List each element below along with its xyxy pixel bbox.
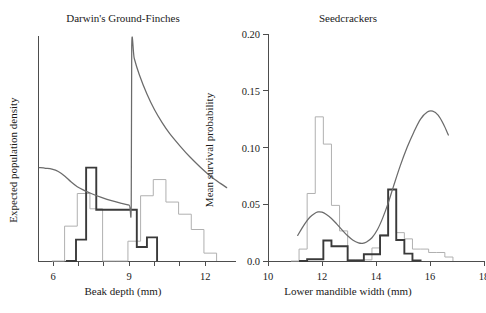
seedcrackers-x-tick-labels: 1012141618 [263, 271, 486, 282]
finches-panel-title: Darwin's Ground-Finches [66, 12, 180, 24]
y-tick-label: 0.05 [242, 199, 260, 210]
x-tick-label: 12 [317, 271, 328, 282]
seedcrackers-plot-area: 1012141618 0.00.050.100.150.20 [242, 29, 486, 282]
y-tick-label: 0.10 [242, 143, 260, 154]
finches-x-axis-title: Beak depth (mm) [85, 285, 162, 298]
seedcrackers-histogram-light [291, 117, 453, 261]
seedcrackers-axes: 1012141618 0.00.050.100.150.20 [242, 29, 486, 282]
x-tick-label: 6 [51, 271, 56, 282]
x-tick-label: 14 [371, 271, 382, 282]
x-tick-label: 16 [425, 271, 436, 282]
seedcrackers-y-tick-marks [263, 34, 268, 261]
seedcrackers-survival-curve [298, 111, 449, 243]
y-tick-label: 0.20 [242, 29, 260, 40]
seedcrackers-y-axis-title: Mean survival probability [203, 92, 215, 207]
finches-density-curve [39, 37, 226, 217]
y-tick-label: 0.15 [242, 86, 260, 97]
seedcrackers-histogram-dark [299, 190, 421, 262]
finches-y-axis-title: Expected population density [7, 97, 19, 223]
x-tick-label: 9 [127, 271, 132, 282]
seedcrackers-panel-title: Seedcrackers [319, 12, 377, 24]
finches-data-layer [39, 37, 226, 261]
figure-root: Darwin's Ground-Finches Beak depth (mm) … [0, 0, 486, 313]
seedcrackers-data-layer [291, 111, 453, 261]
panel-seedcrackers: Seedcrackers Lower mandible width (mm) M… [200, 0, 486, 313]
x-tick-label: 10 [263, 271, 274, 282]
seedcrackers-y-tick-labels: 0.00.050.100.150.20 [242, 29, 260, 267]
seedcrackers-svg: Seedcrackers Lower mandible width (mm) M… [200, 0, 486, 313]
y-tick-label: 0.0 [247, 256, 260, 267]
finches-histogram-dark [66, 168, 157, 261]
finches-x-tick-labels: 6912 [51, 271, 211, 282]
x-tick-label: 18 [479, 271, 486, 282]
seedcrackers-x-axis-title: Lower mandible width (mm) [284, 285, 412, 298]
